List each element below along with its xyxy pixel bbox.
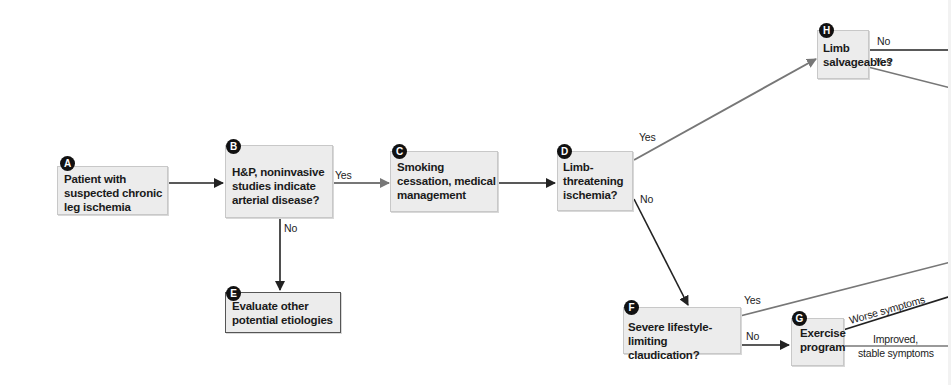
node-d-badge: D [557, 144, 572, 159]
edge-label-f-no: No [746, 330, 759, 342]
edge-label-d-yes: Yes [639, 131, 656, 143]
node-c-box: Smoking cessation, medical management [390, 151, 498, 212]
node-d-box: Limb- threatening ischemia? [557, 151, 633, 211]
node-d-text: Limb- threatening ischemia? [563, 160, 623, 202]
node-b-box: H&P, noninvasive studies indicate arteri… [225, 145, 333, 218]
node-e-badge: E [226, 286, 241, 301]
node-c-badge: C [392, 144, 407, 159]
flowchart-canvas: Patient with suspected chronic leg ische… [0, 0, 951, 385]
node-f-box: Severe lifestyle-limiting claudication? [623, 307, 741, 354]
edge-label-g-improved: Improved, [873, 333, 918, 345]
node-c-text: Smoking cessation, medical management [397, 160, 496, 202]
node-h-badge: H [819, 23, 834, 38]
edge-label-d-no: No [640, 193, 653, 205]
arrow-d-to-h [634, 59, 816, 160]
node-g-text: Exercise program [800, 326, 846, 354]
line-f-yes [740, 262, 951, 316]
node-b-text: H&P, noninvasive studies indicate arteri… [232, 165, 324, 207]
edge-label-b-no: No [284, 222, 297, 234]
node-g-badge: G [792, 311, 807, 326]
line-h-yes [868, 67, 951, 88]
edge-label-h-no: No [877, 35, 890, 47]
node-b-badge: B [226, 139, 241, 154]
edge-label-f-yes: Yes [744, 294, 761, 306]
edge-label-g-stable: stable symptoms [858, 347, 934, 359]
arrow-d-to-f [634, 199, 688, 305]
node-f-badge: F [624, 300, 639, 315]
node-e-text: Evaluate other potential etiologies [232, 299, 333, 327]
edge-label-b-yes: Yes [335, 169, 352, 181]
edge-label-h-yes: Yes [875, 56, 892, 68]
node-a-box: Patient with suspected chronic leg ische… [57, 166, 168, 215]
node-f-text: Severe lifestyle-limiting claudication? [628, 320, 740, 362]
node-a-text: Patient with suspected chronic leg ische… [64, 172, 162, 214]
node-e-box: Evaluate other potential etiologies [225, 292, 341, 333]
node-a-badge: A [60, 156, 75, 171]
